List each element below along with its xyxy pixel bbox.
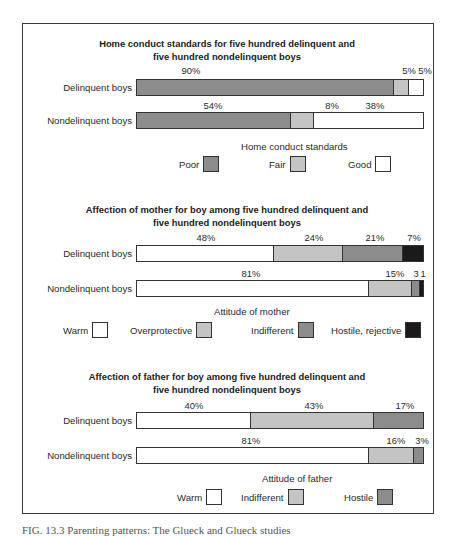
stacked-bar-nondelinquent (136, 112, 424, 129)
figure-frame (22, 23, 434, 514)
pct-label: 24% (305, 232, 324, 243)
segment-fair (394, 80, 408, 95)
row-label-nondelinquent: Nondelinquent boys (47, 115, 132, 126)
swatch-warm (206, 489, 222, 505)
pct-label: 90% (182, 65, 201, 76)
stacked-bar-nondelinquent (136, 447, 424, 464)
legend-item-indifferent: Indifferent (241, 489, 304, 505)
legend-title: Attitude of father (262, 473, 332, 484)
legend-label: Hostile, rejective (331, 325, 401, 336)
chart-3-title-line-2: five hundred nondelinquent boys (0, 383, 454, 396)
stacked-bar-delinquent (136, 79, 424, 96)
row-label-nondelinquent: Nondelinquent boys (47, 283, 132, 294)
segment-hostile-rejective (403, 246, 423, 261)
legend-label: Good (348, 159, 371, 170)
pct-label: 5% (402, 65, 416, 76)
pct-label: 81% (242, 268, 261, 279)
segment-warm (137, 281, 369, 296)
legend-item-warm: Warm (63, 322, 108, 338)
swatch-overprotective (196, 322, 212, 338)
legend-item-good: Good (348, 156, 391, 172)
legend-label: Warm (63, 325, 88, 336)
pct-label: 54% (204, 100, 223, 111)
pct-label: 38% (366, 100, 385, 111)
segment-good (409, 80, 423, 95)
swatch-hostile-rejective (405, 322, 421, 338)
segment-warm (137, 413, 251, 428)
pct-label: 1 (420, 268, 425, 279)
segment-indifferent (369, 448, 415, 463)
legend-item-indifferent: Indifferent (251, 322, 314, 338)
pct-label: 40% (185, 400, 204, 411)
legend-item-warm: Warm (177, 489, 222, 505)
chart-3-title-line-1: Affection of father for boy among five h… (0, 370, 454, 383)
legend-label: Indifferent (251, 325, 294, 336)
row-label-delinquent: Delinquent boys (63, 415, 132, 426)
pct-label: 21% (366, 232, 385, 243)
pct-label: 81% (242, 435, 261, 446)
pct-label: 17% (396, 400, 415, 411)
swatch-fair (290, 156, 306, 172)
segment-indifferent (343, 246, 403, 261)
legend-label: Poor (179, 159, 199, 170)
legend-label: Warm (177, 492, 202, 503)
pct-label: 8% (325, 100, 339, 111)
legend-item-hostile: Hostile (344, 489, 393, 505)
segment-hostile (374, 413, 423, 428)
legend-item-poor: Poor (179, 156, 219, 172)
chart-2-title-line-2: five hundred nondelinquent boys (0, 216, 454, 229)
legend-item-overprotective: Overprotective (130, 322, 212, 338)
pct-label: 7% (407, 232, 421, 243)
stacked-bar-delinquent (136, 412, 424, 429)
row-label-nondelinquent: Nondelinquent boys (47, 450, 132, 461)
swatch-indifferent (288, 489, 304, 505)
pct-label: 3 (413, 268, 418, 279)
segment-overprotective (369, 281, 412, 296)
stacked-bar-nondelinquent (136, 280, 424, 297)
chart-1-title: Home conduct standards for five hundred … (0, 37, 454, 63)
chart-2-title: Affection of mother for boy among five h… (0, 203, 454, 229)
pct-label: 16% (387, 435, 406, 446)
segment-hostile-rejective (420, 281, 423, 296)
segment-warm (137, 246, 274, 261)
legend-label: Fair (269, 159, 286, 170)
segment-poor (137, 113, 291, 128)
chart-1-title-line-2: five hundred nondelinquent boys (0, 50, 454, 63)
legend-label: Overprotective (130, 325, 192, 336)
legend-label: Indifferent (241, 492, 284, 503)
segment-overprotective (274, 246, 343, 261)
swatch-indifferent (298, 322, 314, 338)
figure-caption: FIG. 13.3 Parenting patterns: The Glueck… (22, 524, 291, 536)
segment-warm (137, 448, 369, 463)
segment-indifferent (412, 281, 421, 296)
chart-1-title-line-1: Home conduct standards for five hundred … (0, 37, 454, 50)
pct-label: 48% (197, 232, 216, 243)
swatch-poor (203, 156, 219, 172)
chart-2-title-line-1: Affection of mother for boy among five h… (0, 203, 454, 216)
segment-fair (291, 113, 314, 128)
legend-item-fair: Fair (269, 156, 306, 172)
pct-label: 5% (418, 65, 432, 76)
pct-label: 3% (415, 435, 429, 446)
pct-label: 15% (386, 268, 405, 279)
segment-poor (137, 80, 394, 95)
stacked-bar-delinquent (136, 245, 424, 262)
legend-item-hostile-rejective: Hostile, rejective (331, 322, 421, 338)
legend-label: Hostile (344, 492, 373, 503)
swatch-good (375, 156, 391, 172)
legend-title: Home conduct standards (241, 141, 348, 152)
segment-good (314, 113, 423, 128)
segment-indifferent (251, 413, 374, 428)
pct-label: 43% (305, 400, 324, 411)
row-label-delinquent: Delinquent boys (63, 248, 132, 259)
chart-3-title: Affection of father for boy among five h… (0, 370, 454, 396)
segment-hostile (414, 448, 423, 463)
legend-title: Attitude of mother (214, 306, 290, 317)
swatch-hostile (377, 489, 393, 505)
swatch-warm (92, 322, 108, 338)
row-label-delinquent: Delinquent boys (63, 82, 132, 93)
